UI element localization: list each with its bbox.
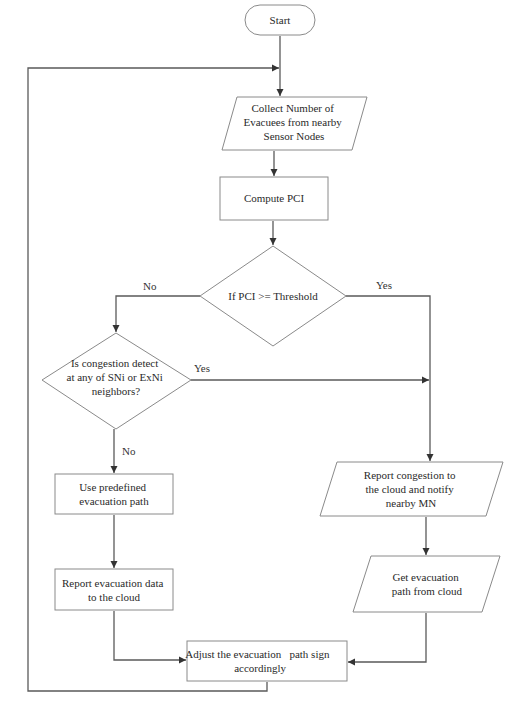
node-report-congestion-line: Report congestion to — [364, 469, 456, 481]
node-predefined: Use predefined evacuation path — [55, 474, 173, 514]
node-report-data: Report evacuation data to the cloud — [55, 569, 173, 610]
node-start-text: Start — [270, 14, 291, 26]
edge-get-path-to-adjust — [348, 613, 426, 662]
edge-label-decision1-yes: Yes — [376, 279, 392, 291]
process-shape — [55, 474, 173, 514]
node-report-congestion-line: nearby MN — [386, 497, 436, 509]
node-collect-line: Sensor Nodes — [264, 130, 325, 142]
node-predefined-line: Use predefined — [79, 481, 146, 493]
node-report-congestion-line: the cloud and notify — [365, 483, 454, 495]
process-shape — [55, 569, 173, 610]
node-compute-text: Compute PCI — [244, 192, 305, 204]
node-decision1-line: If PCI >= Threshold — [228, 290, 318, 302]
node-decision2-line: neighbors? — [92, 385, 140, 397]
node-adjust-line: accordingly — [234, 662, 286, 674]
flowchart: Start Collect Number of Evacuees from ne… — [0, 0, 525, 721]
node-start: Start — [245, 5, 315, 35]
edge-label-decision2-yes: Yes — [194, 362, 210, 374]
node-adjust-line: Adjust the evacuation path sign — [185, 648, 330, 660]
edge-decision1-no — [116, 296, 200, 332]
node-start-line: Start — [270, 14, 291, 26]
node-decision2: Is congestion detect at any of SNi or Ex… — [42, 333, 191, 429]
node-decision2-line: Is congestion detect — [71, 357, 158, 369]
node-get-path-line: Get evacuation — [392, 571, 459, 583]
node-get-path: Get evacuation path from cloud — [353, 556, 500, 612]
node-compute-line: Compute PCI — [244, 192, 305, 204]
node-decision1: If PCI >= Threshold — [200, 246, 346, 346]
node-adjust: Adjust the evacuation path sign accordin… — [185, 641, 348, 681]
edge-decision1-yes — [346, 296, 430, 461]
edge-label-decision1-no: No — [143, 280, 157, 292]
process-shape — [187, 641, 347, 681]
node-decision1-text: If PCI >= Threshold — [228, 290, 318, 302]
node-decision2-line: at any of SNi or ExNi — [67, 371, 163, 383]
node-collect-line: Collect Number of — [251, 102, 334, 114]
node-report-congestion: Report congestion to the cloud and notif… — [320, 462, 503, 516]
edge-label-decision2-no: No — [122, 445, 136, 457]
node-report-data-line: Report evacuation data — [62, 577, 164, 589]
node-get-path-line: path from cloud — [392, 585, 463, 597]
edge-report-data-to-adjust — [114, 611, 186, 660]
io-shape — [353, 556, 500, 612]
node-predefined-line: evacuation path — [79, 495, 149, 507]
node-compute: Compute PCI — [220, 177, 328, 220]
node-report-data-line: to the cloud — [88, 591, 140, 603]
node-collect: Collect Number of Evacuees from nearby S… — [222, 97, 367, 150]
node-collect-line: Evacuees from nearby — [243, 116, 342, 128]
